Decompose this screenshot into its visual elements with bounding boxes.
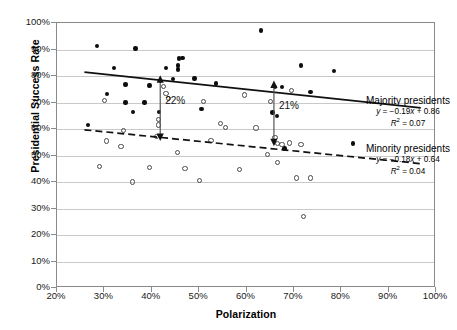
y-tick-label: 50% — [6, 149, 50, 160]
x-tick-mark — [388, 287, 389, 292]
legend-equation-minority: y = −0.18x + 0.64 — [366, 155, 450, 164]
data-point — [95, 44, 99, 48]
data-point — [237, 167, 242, 172]
x-tick-mark — [103, 287, 104, 292]
legend-r2-majority: R2 = 0.07 — [366, 117, 450, 128]
data-point — [280, 85, 284, 89]
gridline — [57, 182, 434, 183]
data-point — [142, 100, 146, 104]
data-point — [242, 92, 247, 97]
data-point — [156, 122, 161, 127]
legend-entry-minority: Minority presidents y = −0.18x + 0.64 R2… — [366, 143, 450, 176]
data-point — [351, 141, 355, 145]
x-tick-mark — [293, 287, 294, 292]
data-point — [86, 123, 90, 127]
data-point — [268, 99, 273, 104]
legend-label-majority: Majority presidents — [366, 95, 450, 106]
data-point — [112, 66, 116, 70]
data-point — [130, 179, 135, 184]
data-point — [332, 69, 336, 73]
data-point — [157, 110, 161, 114]
data-point — [208, 138, 213, 143]
data-point — [308, 90, 312, 94]
data-point — [287, 140, 292, 145]
y-tick-label: 90% — [6, 43, 50, 54]
gridline — [57, 209, 434, 210]
x-tick-mark — [435, 287, 436, 292]
annotation-label-22: 22% — [165, 95, 185, 106]
legend-label-minority: Minority presidents — [366, 143, 450, 154]
data-point — [275, 160, 280, 165]
y-tick-label: 40% — [6, 175, 50, 186]
y-tick-label: 80% — [6, 69, 50, 80]
data-point — [105, 92, 109, 96]
y-tick-label: 60% — [6, 122, 50, 133]
data-point — [147, 83, 151, 87]
data-point — [270, 110, 274, 114]
y-tick-label: 10% — [6, 255, 50, 266]
data-point — [192, 76, 196, 80]
data-point — [253, 125, 258, 130]
x-tick-mark — [198, 287, 199, 292]
data-point — [180, 56, 184, 60]
data-point — [171, 77, 175, 81]
data-point — [272, 135, 277, 140]
data-point — [131, 110, 135, 114]
x-axis-title: Polarization — [56, 308, 436, 320]
data-point — [308, 175, 313, 180]
data-point — [133, 46, 137, 50]
data-point — [299, 63, 303, 67]
scatter-chart: Presidential Success Rate Polarization 0… — [0, 0, 457, 330]
x-tick-mark — [56, 287, 57, 292]
data-point — [259, 28, 263, 32]
data-point — [97, 164, 102, 169]
y-tick-label: 30% — [6, 202, 50, 213]
x-tick-mark — [151, 287, 152, 292]
gridline — [57, 76, 434, 77]
data-point — [197, 178, 202, 183]
gridline — [57, 235, 434, 236]
legend-equation-majority: y = −0.19x + 0.86 — [366, 107, 450, 116]
gridline — [57, 129, 434, 130]
data-point — [301, 214, 306, 219]
x-tick-mark — [246, 287, 247, 292]
annotation-label-21: 21% — [279, 100, 299, 111]
legend-entry-majority: Majority presidents y = −0.19x + 0.86 R2… — [366, 95, 450, 128]
data-point — [289, 88, 294, 93]
data-point — [147, 165, 152, 170]
data-point — [275, 114, 279, 118]
data-point — [273, 85, 277, 89]
y-tick-label: 100% — [6, 16, 50, 27]
y-tick-label: 20% — [6, 228, 50, 239]
data-point — [123, 82, 127, 86]
data-point — [164, 66, 168, 70]
data-point — [161, 84, 166, 89]
data-point — [214, 81, 218, 85]
x-tick-mark — [340, 287, 341, 292]
data-point — [294, 175, 299, 180]
data-point — [223, 125, 228, 130]
data-point — [199, 107, 203, 111]
gridline — [57, 50, 434, 51]
y-tick-label: 70% — [6, 96, 50, 107]
data-point — [176, 67, 180, 71]
data-point — [118, 144, 123, 149]
legend-r2-minority: R2 = 0.04 — [366, 165, 450, 176]
data-point — [182, 166, 187, 171]
data-point — [154, 134, 159, 139]
data-point — [298, 142, 303, 147]
data-point — [123, 100, 127, 104]
gridline — [57, 262, 434, 263]
data-point — [104, 138, 109, 143]
data-point — [121, 128, 126, 133]
